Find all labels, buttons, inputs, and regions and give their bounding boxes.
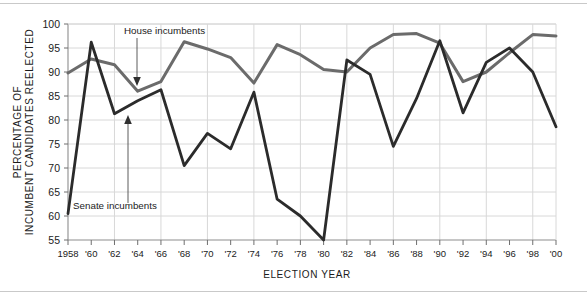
y-axis-title-line1: PERCENTAGE OF — [12, 86, 23, 179]
x-tick-label-1986: '86 — [387, 248, 399, 259]
y-tick-label-55: 55 — [48, 234, 60, 246]
y-tick-label-80: 80 — [48, 114, 60, 126]
x-tick-label-1972: '72 — [224, 248, 236, 259]
x-tick-label-1990: '90 — [434, 248, 446, 259]
y-tick-label-65: 65 — [48, 186, 60, 198]
x-tick-label-1962: '62 — [108, 248, 120, 259]
gridlines-group — [68, 24, 556, 216]
x-tick-label-1964: '64 — [132, 248, 144, 259]
x-tick-label-1978: '78 — [294, 248, 306, 259]
x-tick-label-1980: '80 — [317, 248, 329, 259]
annotation-senate-label: Senate incumbents — [73, 200, 157, 211]
x-tick-label-1998: '98 — [527, 248, 539, 259]
x-tick-label-1994: '94 — [480, 248, 492, 259]
y-tick-label-70: 70 — [48, 162, 60, 174]
y-tick-label-75: 75 — [48, 138, 60, 150]
y-tick-label-60: 60 — [48, 210, 60, 222]
y-tick-label-85: 85 — [48, 90, 60, 102]
y-tick-label-95: 95 — [48, 42, 60, 54]
x-tick-label-1970: '70 — [201, 248, 213, 259]
x-tick-label-1974: '74 — [248, 248, 260, 259]
x-tick-label-1966: '66 — [155, 248, 167, 259]
x-tick-marks — [64, 24, 556, 245]
x-tick-label-1992: '92 — [457, 248, 469, 259]
annotation-house-arrowhead — [133, 77, 141, 86]
x-axis-title: ELECTION YEAR — [263, 269, 351, 280]
y-axis-title-line2: INCUMBENT CANDIDATES REELECTED — [24, 29, 35, 236]
x-tick-label-1960: '60 — [85, 248, 97, 259]
x-tick-label-1968: '68 — [178, 248, 190, 259]
series-line-house-incumbents — [68, 34, 556, 92]
figure-container: 556065707580859095100 1958'60'62'64'66'6… — [0, 0, 587, 295]
line-chart: 556065707580859095100 1958'60'62'64'66'6… — [0, 0, 587, 295]
x-tick-label-1976: '76 — [271, 248, 283, 259]
annotation-house-label: House incumbents — [124, 25, 205, 36]
y-tick-labels: 556065707580859095100 — [42, 18, 60, 246]
x-tick-label-1996: '96 — [503, 248, 515, 259]
x-tick-label-1984: '84 — [364, 248, 376, 259]
x-tick-label-1982: '82 — [341, 248, 353, 259]
x-tick-labels: 1958'60'62'64'66'68'70'72'74'76'78'80'82… — [57, 248, 562, 259]
x-tick-label-1988: '88 — [410, 248, 422, 259]
y-tick-label-100: 100 — [42, 18, 60, 30]
x-tick-label-1958: 1958 — [57, 248, 78, 259]
y-tick-label-90: 90 — [48, 66, 60, 78]
x-tick-label-2000: '00 — [550, 248, 562, 259]
